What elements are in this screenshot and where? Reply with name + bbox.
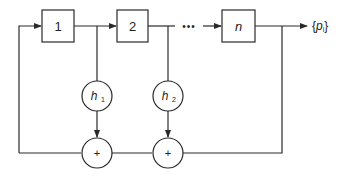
multiplier-subscript-h2: 2 (172, 96, 176, 103)
ellipsis-dots: ••• (182, 21, 196, 32)
multiplier-subscript-h1: 1 (101, 96, 105, 103)
multiplier-h2: h 2 (153, 81, 183, 111)
output-label-text: {pi} (312, 19, 328, 33)
adder-plus-icon-1: + (94, 147, 100, 159)
stage-label-1: 1 (54, 19, 61, 34)
stage-label-2: 2 (129, 19, 136, 34)
feedback-path (19, 26, 81, 153)
adder-2: + (153, 138, 183, 168)
adder-1: + (82, 138, 112, 168)
diagram-svg: 1 2 ••• n h 1 h 2 + + (0, 0, 343, 179)
stage-block-1: 1 (42, 10, 74, 42)
multiplier-label-h1: h (91, 89, 98, 103)
multiplier-h1: h 1 (82, 81, 112, 111)
output-label: {pi} (312, 19, 328, 33)
shift-register-diagram: 1 2 ••• n h 1 h 2 + + (0, 0, 343, 179)
stage-label-n: n (235, 19, 242, 34)
multiplier-label-h2: h (162, 89, 169, 103)
stage-block-2: 2 (117, 10, 148, 42)
adder-plus-icon-2: + (165, 147, 171, 159)
stage-block-n: n (222, 10, 255, 42)
tap-lines (97, 26, 282, 153)
